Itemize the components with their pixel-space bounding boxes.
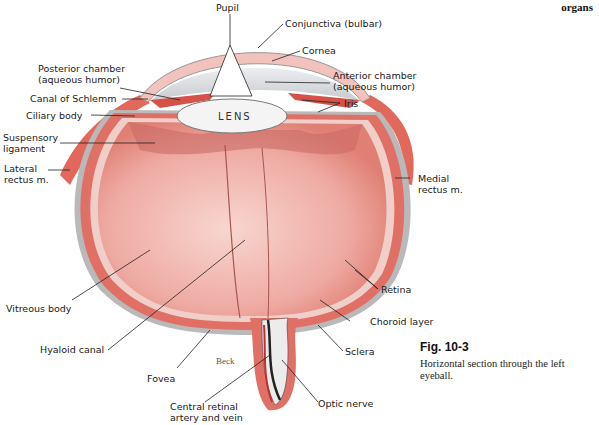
- label-choroid-layer: Choroid layer: [370, 316, 434, 327]
- label-posterior-chamber: Posterior chamber (aqueous humor): [38, 63, 125, 85]
- figure-number: Fig. 10-3: [420, 340, 469, 354]
- label-cornea: Cornea: [302, 45, 336, 56]
- label-iris: Iris: [344, 98, 358, 109]
- label-optic-nerve: Optic nerve: [318, 398, 373, 409]
- label-hyaloid-canal: Hyaloid canal: [40, 344, 104, 355]
- section-header: organs: [561, 1, 593, 13]
- label-retina: Retina: [381, 284, 411, 295]
- figure-caption: Horizontal section through the left eyeb…: [420, 358, 599, 382]
- label-fovea: Fovea: [147, 373, 175, 384]
- label-vitreous-body: Vitreous body: [6, 303, 72, 314]
- label-anterior-chamber: Anterior chamber (aqueous humor): [333, 70, 416, 92]
- label-medial-rectus: Medial rectus m.: [418, 173, 463, 195]
- label-ciliary-body: Ciliary body: [26, 110, 82, 121]
- label-lateral-rectus: Lateral rectus m.: [4, 163, 49, 185]
- label-lens: LENS: [218, 111, 252, 122]
- label-suspensory-ligament: Suspensory ligament: [3, 132, 58, 154]
- label-central-retinal-artery-vein: Central retinal artery and vein: [170, 401, 243, 423]
- label-canal-of-schlemm: Canal of Schlemm: [30, 93, 116, 104]
- artist-signature: Beck: [216, 356, 235, 366]
- label-conjunctiva: Conjunctiva (bulbar): [285, 18, 382, 29]
- label-sclera: Sclera: [345, 346, 374, 357]
- label-pupil: Pupil: [216, 2, 239, 13]
